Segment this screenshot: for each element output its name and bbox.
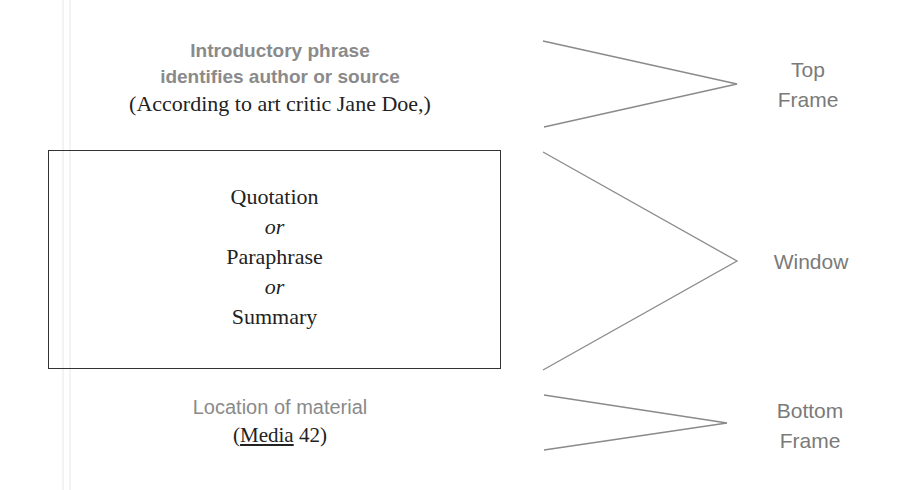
bottom-frame-label-line1: Bottom — [760, 396, 860, 426]
top-frame-label-line1: Top — [760, 55, 856, 85]
window-item-or: or — [48, 212, 501, 242]
citation-page: 42) — [294, 423, 327, 447]
intro-phrase-line1: Introductory phrase — [60, 38, 500, 64]
citation-open: ( — [233, 423, 240, 447]
window-content: Quotation or Paraphrase or Summary — [48, 182, 501, 332]
bottom-frame-text: Location of material (Media 42) — [60, 394, 500, 450]
top-frame-label-line2: Frame — [760, 85, 856, 115]
location-text: Location of material — [60, 394, 500, 420]
window-item-or: or — [48, 272, 501, 302]
bottom-frame-label-line2: Frame — [760, 426, 860, 456]
window-item-summary: Summary — [48, 302, 501, 332]
citation: (Media 42) — [60, 420, 500, 450]
top-frame-bracket — [543, 41, 737, 127]
bottom-frame-label: Bottom Frame — [760, 396, 860, 456]
citation-title: Media — [240, 423, 294, 447]
window-item-quotation: Quotation — [48, 182, 501, 212]
top-frame-text: Introductory phrase identifies author or… — [60, 38, 500, 118]
intro-phrase-line2: identifies author or source — [60, 64, 500, 90]
window-bracket — [543, 152, 737, 370]
window-item-paraphrase: Paraphrase — [48, 242, 501, 272]
window-label: Window — [756, 247, 866, 277]
intro-example: (According to art critic Jane Doe,) — [60, 90, 500, 118]
top-frame-label: Top Frame — [760, 55, 856, 115]
bottom-frame-bracket — [544, 395, 727, 450]
